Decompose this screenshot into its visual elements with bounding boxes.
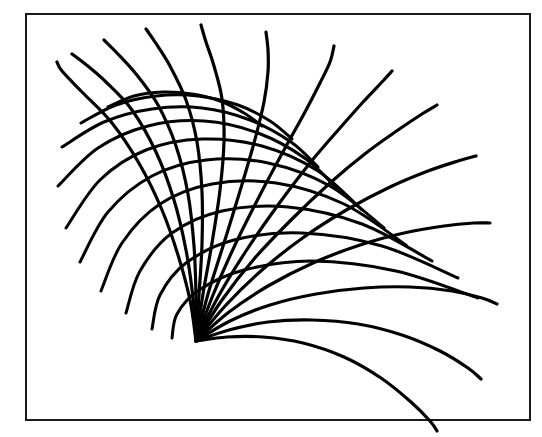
trajectory-13: [196, 320, 481, 379]
trajectory-12: [196, 287, 497, 341]
trajectory-diagram: [0, 0, 542, 437]
figure-page: [0, 0, 542, 437]
trajectory-14: [196, 336, 437, 431]
trajectory-3: [104, 40, 196, 341]
arc-8: [126, 206, 432, 313]
curve-layer: [57, 25, 497, 431]
